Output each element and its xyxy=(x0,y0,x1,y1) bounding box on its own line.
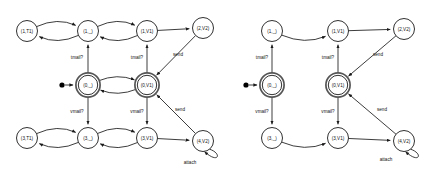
state-label: (3,_) xyxy=(83,136,93,141)
state-node[interactable]: (1,_) xyxy=(262,21,283,42)
state-node[interactable]: (0,V1) xyxy=(326,73,350,97)
initial-state-marker xyxy=(59,82,73,87)
edge-label: attach xyxy=(380,157,393,162)
state-label: (1,V1) xyxy=(332,29,345,34)
state-node[interactable]: (4,V2) xyxy=(193,131,214,152)
state-node[interactable]: (3,V1) xyxy=(137,128,158,149)
state-label: (3,T1) xyxy=(21,136,34,141)
nodes-layer: (1,T1)(1,_)(1,V1)(2,V2)(0,_)(0,V1)(3,T1)… xyxy=(17,18,415,152)
state-label: (2,V2) xyxy=(197,26,210,31)
edge-label: tmail? xyxy=(71,55,84,60)
state-label: (2,V2) xyxy=(398,27,411,32)
state-label: (0,V1) xyxy=(141,83,154,88)
state-node[interactable]: (1,T1) xyxy=(17,21,38,42)
initial-state-marker xyxy=(243,82,257,87)
state-label: (0,_) xyxy=(267,83,277,88)
state-node[interactable]: (0,_) xyxy=(76,73,100,97)
state-diagram-svg: (1,T1)(1,_)(1,V1)(2,V2)(0,_)(0,V1)(3,T1)… xyxy=(0,0,438,171)
state-node[interactable]: (1,V1) xyxy=(137,21,158,42)
edge-label: vmail? xyxy=(321,109,335,114)
edge-label: send xyxy=(377,107,387,112)
state-node[interactable]: (1,V1) xyxy=(328,21,349,42)
edge-label: tmail? xyxy=(131,55,144,60)
edge-label: send xyxy=(175,107,185,112)
edge-label: tmail? xyxy=(322,55,335,60)
state-label: (1,_) xyxy=(83,29,93,34)
state-label: (4,V2) xyxy=(398,139,411,144)
state-label: (1,_) xyxy=(267,29,277,34)
state-node[interactable]: (4,V2) xyxy=(394,131,415,152)
state-node[interactable]: (1,_) xyxy=(78,21,99,42)
state-node[interactable]: (2,V2) xyxy=(394,19,415,40)
state-label: (3,V1) xyxy=(332,136,345,141)
start-dot xyxy=(243,82,248,87)
start-dot xyxy=(59,82,64,87)
edge-label: vmail? xyxy=(70,109,84,114)
state-node[interactable]: (3,T1) xyxy=(17,128,38,149)
state-label: (0,_) xyxy=(83,83,93,88)
state-label: (1,V1) xyxy=(141,29,154,34)
edge-label: tmail? xyxy=(256,55,269,60)
state-node[interactable]: (0,V1) xyxy=(135,73,159,97)
edge-label: send xyxy=(373,52,383,57)
edge-label: vmail? xyxy=(130,109,144,114)
edge-label: vmail? xyxy=(255,109,269,114)
state-label: (3,V1) xyxy=(141,136,154,141)
edge-label: attach xyxy=(184,160,197,165)
edge-labels-layer: tmail?tmail?sendvmail?vmail?sendattachtm… xyxy=(70,52,392,165)
state-node[interactable]: (3,_) xyxy=(78,128,99,149)
state-node[interactable]: (3,_) xyxy=(262,128,283,149)
state-label: (3,_) xyxy=(267,136,277,141)
state-label: (0,V1) xyxy=(332,83,345,88)
figure-canvas: (1,T1)(1,_)(1,V1)(2,V2)(0,_)(0,V1)(3,T1)… xyxy=(0,0,438,171)
state-label: (4,V2) xyxy=(197,139,210,144)
state-node[interactable]: (0,_) xyxy=(260,73,284,97)
edge-label: send xyxy=(173,52,183,57)
state-node[interactable]: (3,V1) xyxy=(328,128,349,149)
state-node[interactable]: (2,V2) xyxy=(193,18,214,39)
state-label: (1,T1) xyxy=(21,29,34,34)
